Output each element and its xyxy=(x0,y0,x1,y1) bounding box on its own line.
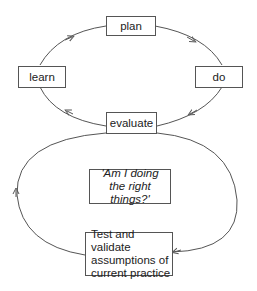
node-plan-label: plan xyxy=(120,20,142,33)
arrow-plan-to-do xyxy=(155,26,222,65)
node-evaluate-label: evaluate xyxy=(110,117,153,130)
node-evaluate: evaluate xyxy=(106,112,157,134)
test-line-1: Test and validate xyxy=(91,228,172,254)
node-learn: learn xyxy=(18,66,66,88)
node-learn-label: learn xyxy=(29,71,55,84)
node-do: do xyxy=(195,66,243,88)
node-do-label: do xyxy=(213,71,226,84)
node-test-validate: Test and validate assumptions of current… xyxy=(85,232,173,276)
test-line-2: assumptions of xyxy=(91,254,168,267)
arrow-learn-to-plan xyxy=(40,26,106,65)
node-plan: plan xyxy=(106,16,156,36)
arrowhead-evaluate-to-learn xyxy=(67,111,73,114)
question-line-1: 'Am I doing xyxy=(101,167,158,180)
arrow-do-to-evaluate xyxy=(157,87,222,126)
test-line-3: current practice xyxy=(91,267,170,280)
arrow-evaluate-to-learn xyxy=(40,87,106,126)
question-box: 'Am I doing the right things?' xyxy=(89,169,171,204)
question-line-2: the right things?' xyxy=(90,180,170,206)
